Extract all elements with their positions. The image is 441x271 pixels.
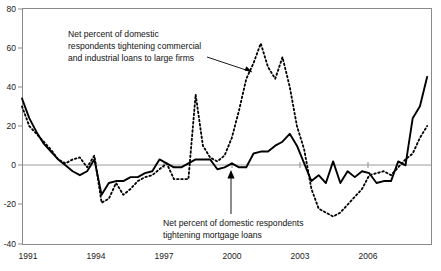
y-tick-label-40: 40 xyxy=(7,82,17,92)
commercial-industrial-annotation: Net percent of domestic respondents tigh… xyxy=(68,29,252,72)
x-tick-label-2003: 2003 xyxy=(291,251,310,261)
mortgage-annotation-line-1: Net percent of domestic respondents xyxy=(163,218,303,228)
x-tick-label-1991: 1991 xyxy=(19,251,38,261)
x-tick-label-1994: 1994 xyxy=(87,251,106,261)
y-tick-label-60: 60 xyxy=(7,43,17,53)
x-axis-labels: 1991 1994 1997 2000 2003 2006 xyxy=(19,251,378,261)
series-line-commercial-industrial xyxy=(22,43,427,216)
ci-annotation-line-2: respondents tightening commercial xyxy=(68,41,201,51)
y-tick-label-20: 20 xyxy=(7,121,17,131)
series-line-mortgage xyxy=(22,77,427,195)
chart-container: 80 60 40 20 0 -20 -40 1991 1994 1997 200… xyxy=(0,0,441,271)
x-tick-label-2006: 2006 xyxy=(359,251,378,261)
loan-officer-survey-chart: 80 60 40 20 0 -20 -40 1991 1994 1997 200… xyxy=(0,0,441,271)
y-axis-labels: 80 60 40 20 0 -20 -40 xyxy=(4,4,17,249)
y-tick-label-minus20: -20 xyxy=(4,199,17,209)
y-tick-label-0: 0 xyxy=(11,160,16,170)
ci-annotation-line-1: Net percent of domestic xyxy=(68,29,159,39)
y-axis-ticks xyxy=(18,9,23,244)
y-tick-label-minus40: -40 xyxy=(4,239,17,249)
mortgage-annotation-line-2: tightening mortgage loans xyxy=(163,230,262,240)
mortgage-annotation-arrow-icon xyxy=(227,170,234,179)
ci-annotation-line-3: and industrial loans to large firms xyxy=(68,53,194,63)
mortgage-annotation: Net percent of domestic respondents tigh… xyxy=(163,170,303,240)
x-tick-label-2000: 2000 xyxy=(223,251,242,261)
y-tick-label-80: 80 xyxy=(7,4,17,14)
x-tick-label-1997: 1997 xyxy=(155,251,174,261)
